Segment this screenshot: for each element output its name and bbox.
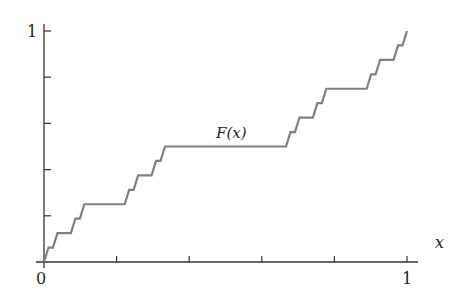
y-one-label: 1	[27, 22, 37, 41]
x-one-label: 1	[402, 269, 412, 288]
cantor-function-chart: F(x) x 0 1 1	[0, 0, 464, 300]
x-axis-label: x	[435, 233, 444, 252]
cantor-curve	[44, 31, 407, 262]
curve-label: F(x)	[215, 124, 247, 142]
origin-label: 0	[36, 269, 46, 288]
